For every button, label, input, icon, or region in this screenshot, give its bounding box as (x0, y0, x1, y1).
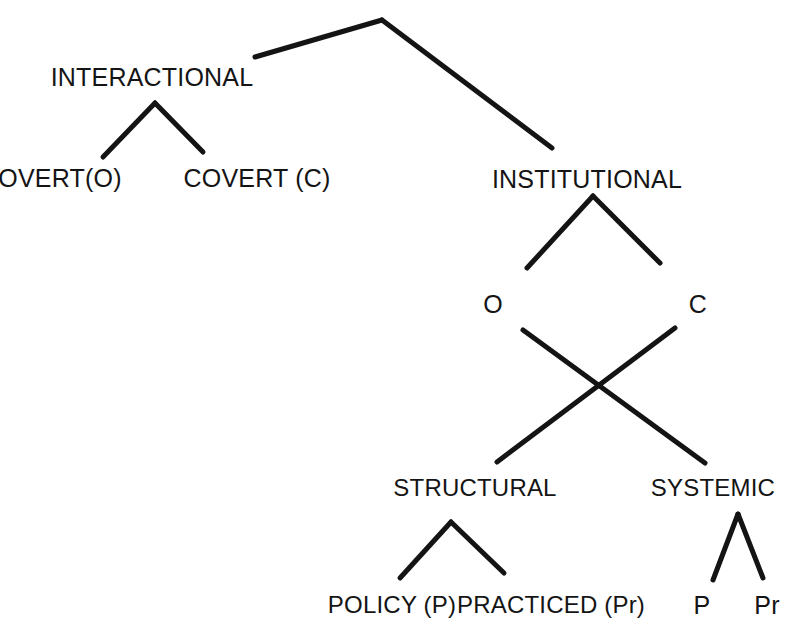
node-label-overt-o: OVERT(O) (0, 166, 122, 191)
tree-edge-institutional-to-o (527, 196, 593, 268)
node-label-inst-o: O (483, 292, 503, 317)
tree-edge-systemic-to-pr (738, 514, 763, 578)
tree-edge-institutional-to-c (593, 196, 660, 263)
tree-edge-systemic-to-p (713, 514, 738, 580)
node-label-practiced-pr: PRACTICED (Pr) (457, 593, 645, 617)
tree-edge-root-to-interactional (255, 20, 382, 57)
node-label-structural: STRUCTURAL (393, 476, 556, 500)
tree-edge-interactional-to-overt (103, 103, 155, 157)
node-label-inst-c: C (689, 292, 707, 317)
tree-edge-c-to-structural (497, 328, 675, 462)
node-label-systemic-p: P (694, 593, 711, 618)
tree-diagram: INTERACTIONALINSTITUTIONALOVERT(O)COVERT… (0, 0, 785, 629)
tree-edges-layer (0, 0, 785, 629)
node-label-interactional: INTERACTIONAL (51, 65, 254, 90)
tree-edge-structural-to-practiced (451, 522, 504, 573)
node-label-systemic-pr: Pr (754, 593, 779, 618)
tree-edge-structural-to-policy (400, 522, 451, 578)
tree-edge-root-to-institutional (382, 20, 552, 148)
node-label-institutional: INSTITUTIONAL (492, 167, 682, 192)
node-label-policy-p: POLICY (P) (328, 593, 456, 617)
node-label-systemic: SYSTEMIC (651, 476, 775, 500)
node-label-covert-c: COVERT (C) (184, 166, 331, 191)
tree-edge-o-to-systemic (523, 330, 705, 463)
tree-edge-interactional-to-covert (155, 103, 203, 152)
